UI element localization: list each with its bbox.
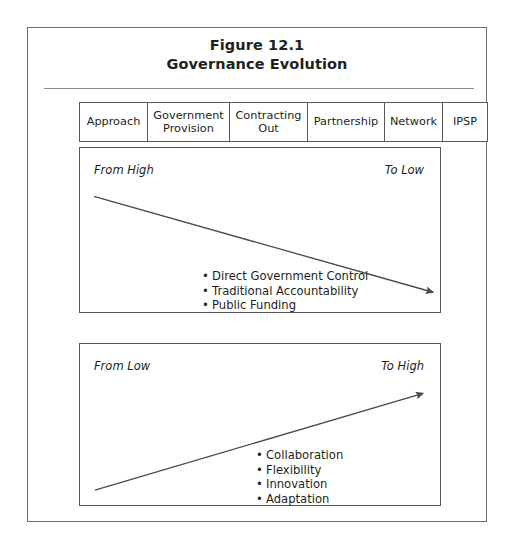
approach-table: Approach Government Provision Contractin… [79,102,488,142]
table-cell-approach: Approach [80,103,147,141]
list-item: Collaboration [256,448,343,463]
title-divider [44,88,474,89]
list-item: Adaptation [256,492,343,507]
downward-bullet-list: Direct Government Control Traditional Ac… [202,269,368,313]
list-item: Traditional Accountability [202,284,368,299]
upward-evolution-panel: From Low To High Collaboration Flexibili… [79,343,441,506]
list-item: Innovation [256,477,343,492]
table-cell-government-provision: Government Provision [147,103,229,141]
table-cell-ipsp: IPSP [442,103,487,141]
table-cell-contracting-out: Contracting Out [229,103,307,141]
figure-title: Figure 12.1 Governance Evolution [28,36,486,74]
figure-title-line-1: Figure 12.1 [28,36,486,55]
table-cell-partnership: Partnership [307,103,384,141]
figure-frame: Figure 12.1 Governance Evolution Approac… [27,27,487,522]
list-item: Public Funding [202,298,368,313]
list-item: Flexibility [256,463,343,478]
upward-bullet-list: Collaboration Flexibility Innovation Ada… [256,448,343,506]
figure-title-line-2: Governance Evolution [28,55,486,74]
list-item: Direct Government Control [202,269,368,284]
downward-evolution-panel: From High To Low Direct Government Contr… [79,147,441,313]
table-cell-network: Network [384,103,442,141]
